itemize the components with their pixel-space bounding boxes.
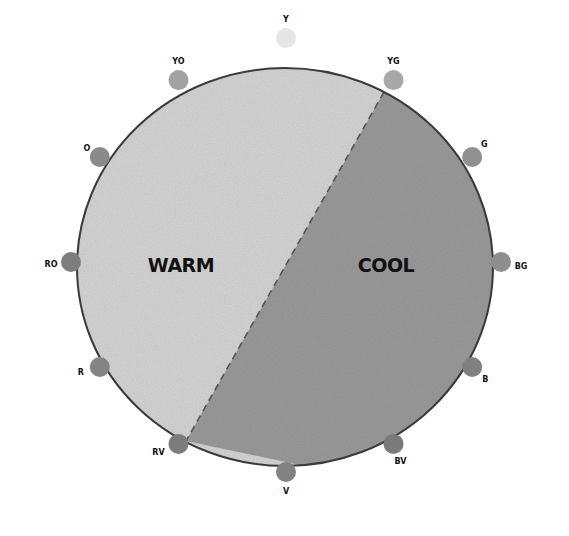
swatch-label-o: O <box>83 144 90 153</box>
paper-grain-texture <box>0 0 569 536</box>
swatch-label-rv: RV <box>152 448 165 457</box>
swatch-yg <box>384 70 404 90</box>
swatch-label-bg: BG <box>515 262 528 271</box>
swatch-label-r: R <box>78 368 84 377</box>
swatch-o <box>90 147 110 167</box>
color-wheel-diagram: WARM COOL YYGGBGBBVVRVRROOYO <box>0 0 569 536</box>
swatch-y <box>276 28 296 48</box>
warm-label: WARM <box>148 254 214 276</box>
swatch-r <box>90 357 110 377</box>
swatch-bv <box>384 434 404 454</box>
swatch-label-yo: YO <box>171 57 185 66</box>
swatch-label-v: V <box>283 487 290 496</box>
swatch-rv <box>169 434 189 454</box>
cool-label: COOL <box>358 254 415 276</box>
swatch-label-bv: BV <box>395 457 408 466</box>
swatch-yo <box>169 70 189 90</box>
swatch-label-yg: YG <box>386 57 399 66</box>
swatch-label-g: G <box>481 140 488 149</box>
swatch-b <box>462 357 482 377</box>
swatch-g <box>462 147 482 167</box>
swatch-v <box>276 462 296 482</box>
swatch-bg <box>491 252 511 272</box>
wheel-regions <box>0 0 569 536</box>
swatch-ro <box>61 252 81 272</box>
swatch-label-b: B <box>482 375 488 384</box>
swatch-label-ro: RO <box>45 260 58 269</box>
swatch-label-y: Y <box>282 15 289 24</box>
